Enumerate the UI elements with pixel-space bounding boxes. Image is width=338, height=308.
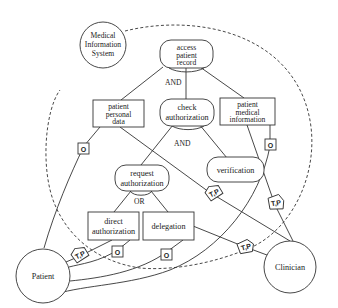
- goal-verification: verification: [207, 157, 264, 182]
- svg-text:O: O: [81, 146, 87, 153]
- actor-patient: Patient: [16, 249, 70, 303]
- and-label-access: AND: [165, 78, 182, 87]
- trust-permission-tag-direct-authorization: T,P: [69, 244, 89, 263]
- system-node: Medical Information System: [80, 22, 126, 68]
- svg-text:Patient: Patient: [32, 272, 55, 281]
- goal-diagram: Medical Information System AND AND OR ac…: [0, 0, 338, 308]
- resource-patient-personal-data: patient personal data: [93, 100, 144, 127]
- goal-access-patient-record: access patient record: [160, 40, 213, 68]
- or-label-request: OR: [134, 197, 145, 206]
- svg-text:O: O: [115, 249, 121, 256]
- owner-tag-personal-data: O: [78, 143, 89, 154]
- goal-request-authorization: request authorization: [115, 165, 169, 191]
- svg-text:information: information: [230, 115, 266, 124]
- resource-patient-medical-information: patient medical information: [220, 98, 275, 125]
- svg-text:System: System: [92, 49, 114, 58]
- goal-check-authorization: check authorization: [160, 99, 214, 126]
- resource-direct-authorization: direct authorization: [88, 212, 139, 240]
- svg-text:authorization: authorization: [120, 179, 163, 188]
- owner-tag-direct-authorization: O: [112, 246, 123, 257]
- svg-text:record: record: [177, 58, 197, 67]
- trust-permission-tag-medical-information: T,P: [268, 194, 285, 211]
- svg-text:O: O: [268, 142, 274, 149]
- and-label-check: AND: [174, 139, 191, 148]
- svg-text:authorization: authorization: [92, 227, 135, 236]
- svg-text:authorization: authorization: [165, 113, 208, 122]
- svg-text:request: request: [130, 169, 154, 178]
- svg-text:data: data: [112, 117, 125, 126]
- svg-text:direct: direct: [104, 217, 123, 226]
- actor-clinician: Clinician: [264, 241, 316, 293]
- svg-text:delegation: delegation: [151, 222, 185, 231]
- svg-text:check: check: [177, 103, 197, 112]
- svg-text:Clinician: Clinician: [275, 263, 305, 272]
- svg-text:Information: Information: [85, 40, 121, 49]
- trust-permission-tag-delegation: T,P: [236, 238, 255, 255]
- resource-delegation: delegation: [143, 212, 194, 240]
- svg-text:Medical: Medical: [91, 31, 116, 40]
- owner-tag-medical-information: O: [265, 139, 276, 150]
- owner-tag-delegation: O: [161, 249, 172, 260]
- svg-text:verification: verification: [217, 166, 255, 175]
- svg-text:O: O: [164, 252, 170, 259]
